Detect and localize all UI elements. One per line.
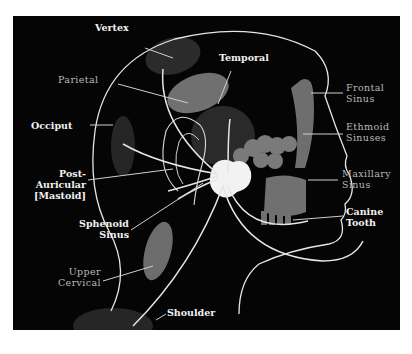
shoulder-region <box>73 308 153 330</box>
label-vertex: Vertex <box>95 22 129 33</box>
upper-cervical-region <box>138 219 179 284</box>
label-parietal: Parietal <box>58 74 99 85</box>
maxillary-sinus-region <box>264 175 306 216</box>
label-ethmoid-sinuses: Ethmoid Sinuses <box>346 121 390 143</box>
label-canine-tooth: Canine Tooth <box>346 206 383 228</box>
label-frontal-sinus: Frontal Sinus <box>346 82 384 104</box>
label-sphenoid-sinus: Sphenoid Sinus <box>53 218 129 240</box>
label-occiput: Occiput <box>31 120 72 131</box>
frontal-sinus-region <box>291 79 314 168</box>
label-maxillary-sinus: Maxillary Sinus <box>342 168 391 190</box>
label-upper-cervical: Upper Cervical <box>33 266 101 288</box>
label-shoulder: Shoulder <box>167 307 215 318</box>
diagram-panel: Vertex Parietal Occiput Post- Auricular … <box>13 16 400 330</box>
vertex-region <box>141 31 204 80</box>
occiput-region <box>111 116 135 176</box>
label-post-auricular: Post- Auricular [Mastoid] <box>33 168 86 201</box>
label-temporal: Temporal <box>219 52 269 63</box>
